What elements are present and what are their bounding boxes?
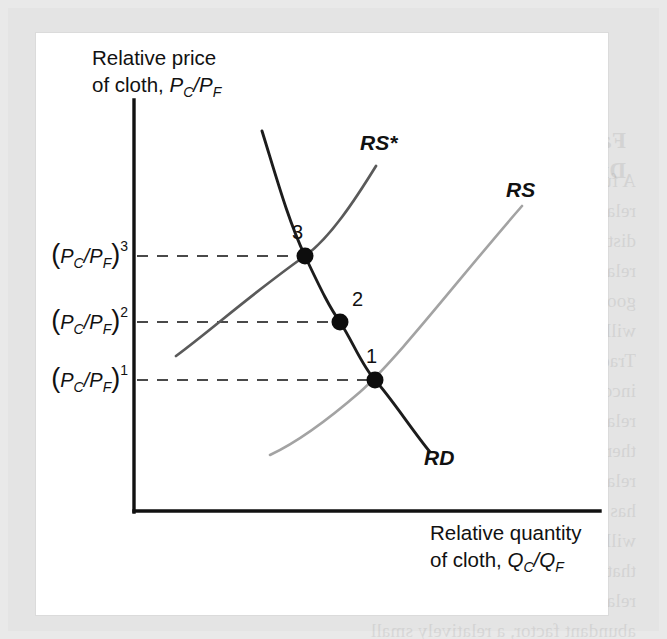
x-axis-title-line2: of cloth, QC/QF [430, 548, 565, 575]
tick2-var2: P [89, 311, 103, 333]
tick3-close: ) [111, 239, 120, 269]
tick3-var2: P [89, 245, 103, 267]
tick2-sup: 2 [120, 304, 128, 320]
x-axis-title-line1: Relative quantity [430, 521, 582, 544]
tick1-var2: P [89, 369, 103, 391]
tick2-var1: P [60, 311, 74, 333]
x-axis-sub-f: F [555, 559, 565, 575]
equilibrium-point-1[interactable] [367, 372, 384, 389]
curve-label-rs-star: RS* [360, 131, 398, 154]
tick1-open: ( [51, 363, 60, 393]
y-axis-title-line1: Relative price [92, 46, 216, 69]
y-axis-var-pf: P [199, 73, 213, 96]
tick2-close: ) [111, 305, 120, 335]
tick3-open: ( [51, 239, 60, 269]
y-axis-sub-f: F [213, 84, 223, 100]
equilibrium-label-3: 3 [292, 221, 303, 243]
tick1-var1: P [60, 369, 74, 391]
y-tick-label-1: (PC/PF)1 [51, 362, 128, 395]
y-axis-var-pc: P [170, 73, 184, 96]
equilibrium-label-1: 1 [366, 345, 377, 367]
tick3-var1: P [60, 245, 74, 267]
tick3-sup: 3 [120, 238, 128, 254]
x-axis-title-prefix: of cloth, [430, 548, 508, 571]
equilibrium-label-2: 2 [352, 288, 363, 310]
curve-label-rs: RS [506, 178, 535, 201]
y-tick-label-2: (PC/PF)2 [51, 304, 128, 337]
equilibrium-point-3[interactable] [297, 248, 314, 265]
tick1-close: ) [111, 363, 120, 393]
figure-page: Factor Prices and the Distribution of In… [0, 0, 667, 639]
y-axis-title-line2: of cloth, PC/PF [92, 73, 223, 100]
tick1-sup: 1 [120, 362, 128, 378]
curve-rs [270, 206, 522, 455]
x-axis-var-qc: Q [508, 548, 524, 571]
y-tick-label-3: (PC/PF)3 [51, 238, 128, 271]
curve-label-rd: RD [424, 446, 454, 469]
figure-svg: 3 2 1 RS* RS RD Relative price of cloth,… [0, 0, 667, 639]
tick2-open: ( [51, 305, 60, 335]
y-axis-title-prefix: of cloth, [92, 73, 170, 96]
equilibrium-point-2[interactable] [332, 314, 349, 331]
x-axis-var-qf: Q [539, 548, 555, 571]
